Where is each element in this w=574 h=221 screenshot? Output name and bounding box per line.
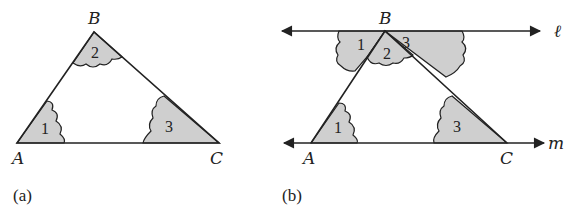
- vertex-c-label: C: [210, 148, 223, 168]
- figure-a: 1 2 3 B A C (a): [10, 8, 223, 205]
- angle-3-region: [143, 96, 219, 143]
- angle-1-top-label: 1: [357, 36, 365, 53]
- vertex-b-label: B: [87, 8, 101, 28]
- triangle-angle-sum-diagram: 1 2 3 B A C (a) 1 2 3 1 3 B A C ℓ m (b): [0, 0, 574, 221]
- figure-b: 1 2 3 1 3 B A C ℓ m (b): [282, 8, 564, 205]
- vertex-c-label-b: C: [500, 148, 513, 168]
- line-m-label: m: [548, 133, 564, 153]
- angle-3-label: 3: [165, 118, 173, 135]
- angle-2-top-label: 2: [383, 45, 391, 62]
- vertex-a-label-b: A: [301, 148, 315, 168]
- vertex-b-label-b: B: [378, 8, 392, 28]
- angle-3-top-label: 3: [402, 34, 410, 51]
- angle-3-bottom-region: [434, 96, 507, 143]
- line-l-label: ℓ: [554, 21, 561, 41]
- angle-3-bottom-label: 3: [453, 118, 461, 135]
- caption-a: (a): [13, 186, 32, 205]
- vertex-a-label: A: [10, 148, 24, 168]
- angle-2-label: 2: [91, 44, 99, 61]
- angle-1-bottom-label: 1: [334, 119, 342, 136]
- angle-1-label: 1: [41, 120, 49, 137]
- caption-b: (b): [282, 186, 302, 205]
